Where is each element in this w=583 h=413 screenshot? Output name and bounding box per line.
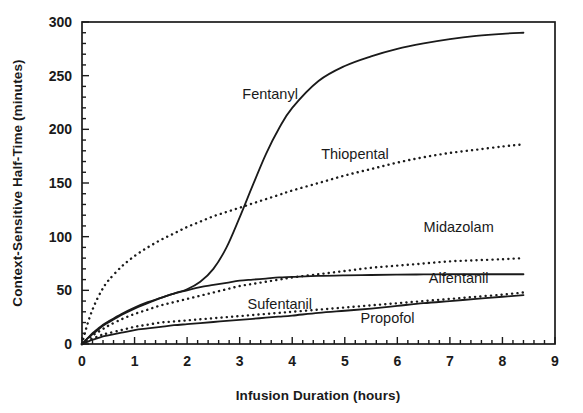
y-tick-label: 200 bbox=[49, 121, 73, 137]
x-tick-label: 4 bbox=[288, 353, 296, 369]
chart-background bbox=[0, 0, 583, 413]
context-sensitive-half-time-chart: 0123456789 050100150200250300 FentanylTh… bbox=[0, 0, 583, 413]
x-tick-label: 2 bbox=[183, 353, 191, 369]
y-tick-label: 100 bbox=[49, 229, 73, 245]
series-label: Midazolam bbox=[424, 219, 494, 235]
series-label: Thiopental bbox=[321, 146, 389, 162]
series-label: Fentanyl bbox=[242, 86, 298, 102]
x-tick-label: 5 bbox=[341, 353, 349, 369]
chart-figure: 0123456789 050100150200250300 FentanylTh… bbox=[0, 0, 583, 413]
series-label: Sufentanil bbox=[248, 296, 312, 312]
y-tick-label: 150 bbox=[49, 175, 73, 191]
x-tick-label: 3 bbox=[236, 353, 244, 369]
x-axis-title: Infusion Duration (hours) bbox=[236, 388, 400, 403]
x-tick-label: 0 bbox=[78, 353, 86, 369]
series-label: Propofol bbox=[361, 310, 415, 326]
y-tick-label: 250 bbox=[49, 68, 73, 84]
x-tick-label: 9 bbox=[551, 353, 559, 369]
x-tick-label: 7 bbox=[446, 353, 454, 369]
y-tick-label: 300 bbox=[49, 14, 73, 30]
y-tick-label: 0 bbox=[64, 336, 72, 352]
series-label: Alfentanil bbox=[429, 270, 489, 286]
y-tick-label: 50 bbox=[56, 282, 72, 298]
x-tick-label: 8 bbox=[499, 353, 507, 369]
x-tick-label: 1 bbox=[131, 353, 139, 369]
x-tick-label: 6 bbox=[393, 353, 401, 369]
y-axis-title: Context-Sensitive Half-Time (minutes) bbox=[10, 59, 25, 306]
